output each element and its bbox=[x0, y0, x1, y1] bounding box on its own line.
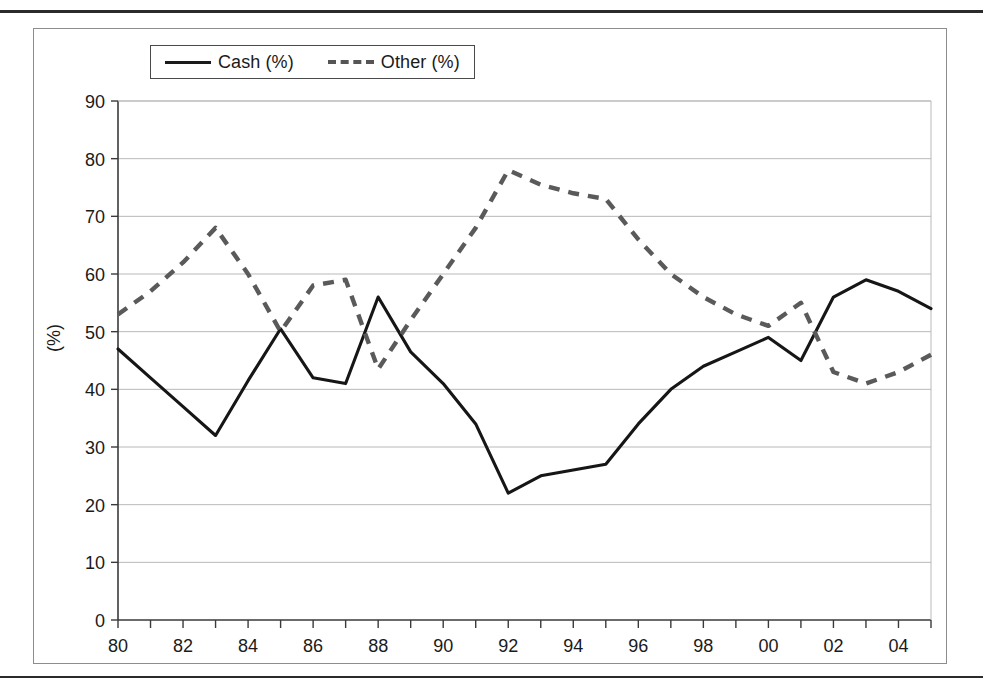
legend-label-cash: Cash (%) bbox=[218, 52, 294, 73]
chart-legend: Cash (%) Other (%) bbox=[150, 45, 475, 79]
page-rule-bottom bbox=[0, 676, 983, 678]
legend-swatch-dashed-icon bbox=[328, 60, 374, 64]
page-root: Cash (%) Other (%) (%) 01020304050607080… bbox=[0, 0, 983, 695]
legend-item-other[interactable]: Other (%) bbox=[328, 52, 460, 73]
legend-item-cash[interactable]: Cash (%) bbox=[165, 52, 294, 73]
chart-figure-frame bbox=[33, 28, 947, 664]
legend-swatch-solid-icon bbox=[165, 61, 211, 64]
legend-label-other: Other (%) bbox=[381, 52, 460, 73]
y-axis-title: (%) bbox=[44, 324, 65, 352]
page-rule-top bbox=[0, 10, 983, 13]
